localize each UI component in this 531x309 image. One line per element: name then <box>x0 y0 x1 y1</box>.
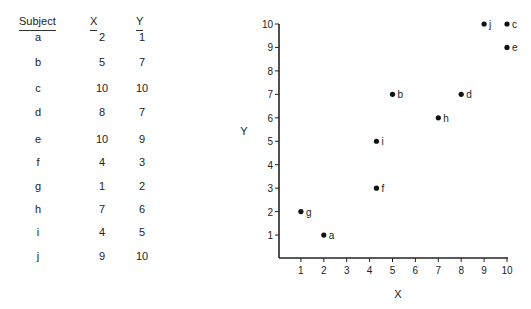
y-tick-label: 2 <box>267 207 273 218</box>
data-point: e <box>504 42 518 53</box>
point-label: c <box>512 19 517 30</box>
point-label: a <box>329 230 335 241</box>
point-label: b <box>398 89 404 100</box>
y-tick-label: 1 <box>267 230 273 241</box>
data-point: j <box>482 19 492 30</box>
y-tick-label: 6 <box>267 113 273 124</box>
point-label: g <box>306 207 312 218</box>
y-tick-label: 7 <box>267 89 273 100</box>
point-label: d <box>466 89 472 100</box>
x-tick-label: 1 <box>298 265 304 276</box>
point-label: j <box>488 19 491 30</box>
point-marker <box>504 21 509 26</box>
x-tick-label: 6 <box>413 265 419 276</box>
point-label: i <box>381 136 383 147</box>
y-tick-label: 10 <box>262 19 274 30</box>
x-tick-label: 7 <box>436 265 442 276</box>
y-axis-label: Y <box>240 125 248 137</box>
point-marker <box>390 92 395 97</box>
data-point: g <box>298 207 311 218</box>
y-tick-label: 9 <box>267 42 273 53</box>
point-marker <box>298 209 303 214</box>
point-marker <box>436 115 441 120</box>
y-tick-label: 8 <box>267 66 273 77</box>
x-tick-label: 8 <box>458 265 464 276</box>
axes: 1234567891012345678910 <box>262 19 513 276</box>
data-points: abcdefghij <box>298 19 518 241</box>
y-tick-label: 5 <box>267 136 273 147</box>
data-point: a <box>321 230 335 241</box>
point-marker <box>504 45 509 50</box>
point-marker <box>321 232 326 237</box>
point-marker <box>459 92 464 97</box>
data-point: h <box>436 113 449 124</box>
point-marker <box>374 186 379 191</box>
data-point: d <box>459 89 472 100</box>
x-tick-label: 2 <box>321 265 327 276</box>
point-label: e <box>512 42 518 53</box>
x-tick-label: 9 <box>481 265 487 276</box>
point-marker <box>374 139 379 144</box>
point-marker <box>482 21 487 26</box>
x-tick-label: 5 <box>390 265 396 276</box>
x-tick-label: 3 <box>344 265 350 276</box>
data-point: i <box>374 136 384 147</box>
y-tick-label: 4 <box>267 160 273 171</box>
data-point: b <box>390 89 404 100</box>
x-axis-label: X <box>394 288 402 300</box>
x-tick-label: 4 <box>367 265 373 276</box>
point-label: f <box>381 183 384 194</box>
point-label: h <box>443 113 449 124</box>
data-point: f <box>374 183 385 194</box>
y-tick-label: 3 <box>267 183 273 194</box>
scatter-chart: 1234567891012345678910 abcdefghij X Y <box>0 0 531 309</box>
x-tick-label: 10 <box>501 265 513 276</box>
data-point: c <box>504 19 517 30</box>
